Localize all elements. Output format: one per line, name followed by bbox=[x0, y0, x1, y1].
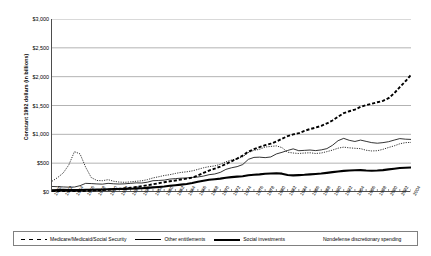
series-line bbox=[52, 138, 411, 187]
chart-figure: Constant 1992 dollars (in billions) $0$5… bbox=[0, 0, 431, 256]
x-axis-tick-labels: 1940194219441946194819501952195419561958… bbox=[51, 194, 410, 224]
legend-label: Nondefense discretionary spending bbox=[323, 236, 401, 242]
series-line bbox=[52, 75, 411, 192]
y-tick-label: $2,000 bbox=[33, 74, 50, 80]
legend-item[interactable]: Nondefense discretionary spending bbox=[294, 235, 401, 242]
legend-swatch-icon bbox=[294, 235, 320, 242]
legend-label: Social investments bbox=[243, 236, 285, 242]
x-tick-label: 2004 bbox=[412, 185, 421, 196]
y-tick-label: $2,500 bbox=[33, 45, 50, 51]
legend-swatch-icon bbox=[214, 235, 240, 242]
chart-legend: Medicare/Medicaid/Social SecurityOther e… bbox=[13, 231, 418, 246]
legend-item[interactable]: Other entitlements bbox=[135, 235, 205, 242]
legend-item[interactable]: Medicare/Medicaid/Social Security bbox=[21, 235, 126, 242]
y-tick-label: $0 bbox=[43, 189, 49, 195]
legend-item[interactable]: Social investments bbox=[214, 235, 285, 242]
y-tick-label: $1,000 bbox=[33, 131, 50, 137]
legend-label: Other entitlements bbox=[164, 236, 205, 242]
plot-area bbox=[51, 19, 410, 192]
y-axis-tick-labels: $0$500$1,000$1,500$2,000$2,500$3,000 bbox=[0, 19, 49, 192]
legend-swatch-icon bbox=[21, 235, 47, 242]
y-tick-label: $1,500 bbox=[33, 103, 50, 109]
y-tick-label: $500 bbox=[37, 160, 49, 166]
plot-lines bbox=[52, 19, 411, 192]
y-tick-label: $3,000 bbox=[33, 16, 50, 22]
legend-swatch-icon bbox=[135, 235, 161, 242]
legend-label: Medicare/Medicaid/Social Security bbox=[50, 236, 126, 242]
